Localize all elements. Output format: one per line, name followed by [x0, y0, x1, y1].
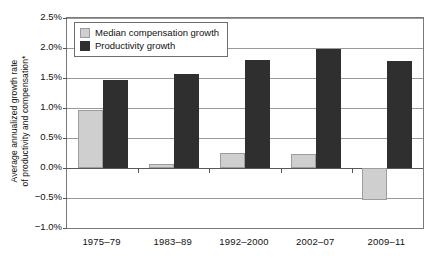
- bar-productivity-2002–07: [316, 49, 341, 168]
- bar-productivity-1975–79: [103, 80, 128, 168]
- bar-productivity-1983–89: [174, 74, 199, 168]
- x-category-label-2009–11: 2009–11: [346, 236, 426, 247]
- x-category-label-2002–07: 2002–07: [275, 236, 355, 247]
- bar-compensation-2002–07: [291, 154, 316, 168]
- y-tick-label-−0.5%: −0.5%: [16, 191, 62, 202]
- x-tick-mark-2: [209, 168, 210, 173]
- x-category-label-1992–2000: 1992–2000: [204, 236, 284, 247]
- y-tick-mark-−0.5%: [63, 198, 67, 199]
- gridline-2.5%: [67, 18, 423, 19]
- x-tick-mark-3: [281, 168, 282, 173]
- y-tick-label-0.5%: 0.5%: [16, 131, 62, 142]
- x-category-label-1975–79: 1975–79: [62, 236, 142, 247]
- bar-compensation-2009–11: [362, 168, 387, 200]
- y-tick-mark-1.0%: [63, 108, 67, 109]
- x-tick-mark-4: [352, 168, 353, 173]
- y-tick-mark-−1.0%: [63, 228, 67, 229]
- y-tick-label-0.0%: 0.0%: [16, 161, 62, 172]
- y-tick-label-1.0%: 1.0%: [16, 101, 62, 112]
- y-tick-label-−1.0%: −1.0%: [16, 221, 62, 232]
- y-tick-mark-0.5%: [63, 138, 67, 139]
- legend-swatch-icon-productivity: [80, 41, 90, 51]
- y-tick-mark-2.0%: [63, 48, 67, 49]
- legend-label-compensation: Median compensation growth: [95, 27, 219, 38]
- legend-swatch-icon-compensation: [80, 28, 90, 38]
- y-tick-mark-2.5%: [63, 18, 67, 19]
- chart-legend: Median compensation growth Productivity …: [74, 22, 228, 57]
- x-tick-mark-1: [138, 168, 139, 173]
- bar-chart-figure: Average annualized growth rate of produc…: [0, 0, 442, 264]
- bar-compensation-1975–79: [78, 110, 103, 168]
- x-category-label-1983–89: 1983–89: [133, 236, 213, 247]
- bar-productivity-1992–2000: [245, 60, 270, 168]
- y-tick-mark-1.5%: [63, 78, 67, 79]
- legend-item-median-compensation-growth: Median compensation growth: [80, 26, 219, 39]
- legend-label-productivity: Productivity growth: [95, 40, 175, 51]
- bar-compensation-1983–89: [149, 164, 174, 168]
- legend-item-productivity-growth: Productivity growth: [80, 39, 219, 52]
- y-tick-label-2.0%: 2.0%: [16, 41, 62, 52]
- bar-productivity-2009–11: [387, 61, 412, 168]
- bar-compensation-1992–2000: [220, 153, 245, 168]
- y-tick-label-1.5%: 1.5%: [16, 71, 62, 82]
- y-tick-mark-0.0%: [63, 168, 67, 169]
- y-tick-label-2.5%: 2.5%: [16, 11, 62, 22]
